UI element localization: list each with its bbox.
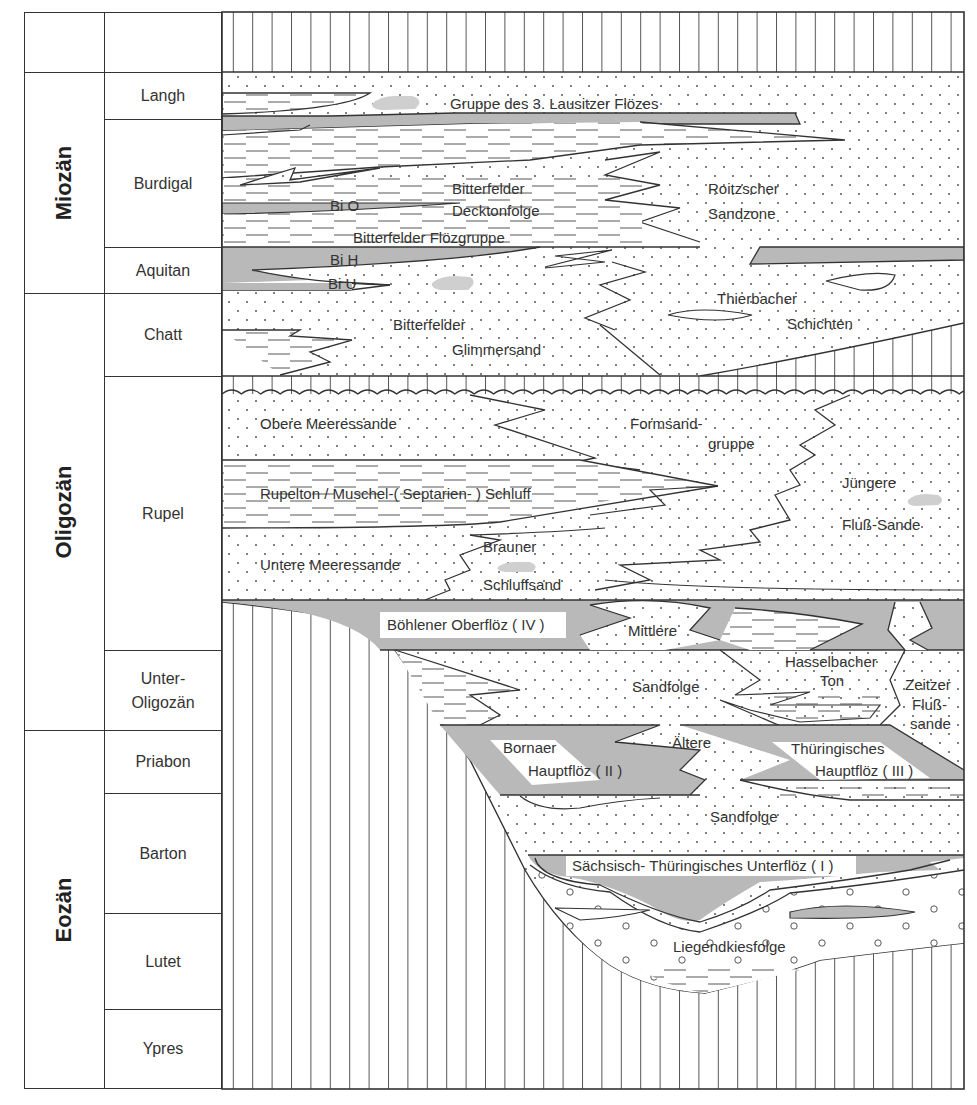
unit-label-unterfloez: Sächsisch- Thüringisches Unterflöz ( I ) bbox=[572, 857, 833, 874]
unit-label-zeitzer-3: sande bbox=[910, 715, 951, 732]
unit-label-brauner-2: Schluffsand bbox=[483, 576, 561, 593]
unit-label-flozgruppe: Bitterfelder Flözgruppe bbox=[353, 229, 505, 246]
unit-label-hasselbacher-2: Ton bbox=[820, 672, 844, 689]
unit-label-thierbacher-1: Thierbacher bbox=[717, 290, 797, 307]
unit-label-hasselbacher-1: Hasselbacher bbox=[785, 653, 877, 670]
unit-label-zeitzer-1: Zeitzer bbox=[905, 676, 951, 693]
unit-label-thierbacher-2: Schichten bbox=[787, 315, 853, 332]
unit-label-roitzscher-1: Roitzscher bbox=[708, 180, 779, 197]
unit-label-rupelton: Rupelton / Muschel-( Septarien- ) Schluf… bbox=[260, 485, 532, 502]
unit-label-boehlener: Böhlener Oberflöz ( IV ) bbox=[387, 616, 545, 633]
unit-label-bi-o: Bi O bbox=[330, 197, 359, 214]
unit-label-formsand-2: gruppe bbox=[708, 435, 755, 452]
stratigraphic-chart: Miozän Oligozän Eozän Langh Burdigal Aqu… bbox=[0, 0, 977, 1105]
unit-label-obere-meeressande: Obere Meeressande bbox=[260, 415, 397, 432]
unit-label-glimmersand-1: Bitterfelder bbox=[393, 316, 466, 333]
unit-label-juengere-1: Jüngere bbox=[842, 474, 896, 491]
unit-label-bornaer-1: Bornaer bbox=[503, 739, 556, 756]
cross-section: Gruppe des 3. Lausitzer Flözes Bitterfel… bbox=[0, 0, 977, 1105]
unit-label-thueringisches-1: Thüringisches bbox=[791, 740, 884, 757]
unit-label-sandfolge-mid: Sandfolge bbox=[632, 678, 700, 695]
unit-label-zeitzer-2: Fluß- bbox=[912, 696, 947, 713]
unit-label-brauner-1: Brauner bbox=[483, 538, 536, 555]
unit-label-deckton-1: Bitterfelder bbox=[452, 180, 525, 197]
unit-label-roitzscher-2: Sandzone bbox=[708, 205, 776, 222]
unit-label-mittlere: Mittlere bbox=[628, 622, 677, 639]
unit-label-lausitz: Gruppe des 3. Lausitzer Flözes bbox=[450, 95, 658, 112]
unit-label-thueringisches-2: Hauptflöz ( III ) bbox=[815, 762, 913, 779]
unit-label-bi-u: Bi U bbox=[328, 275, 356, 292]
unit-label-sandfolge-low: Sandfolge bbox=[710, 808, 778, 825]
unit-label-untere-meeressande: Untere Meeressande bbox=[260, 556, 400, 573]
unit-label-formsand-1: Formsand- bbox=[630, 415, 703, 432]
unit-label-deckton-2: Decktonfolge bbox=[452, 202, 540, 219]
unit-label-bi-h: Bi H bbox=[330, 251, 358, 268]
unit-label-bornaer-2: Hauptflöz ( II ) bbox=[528, 762, 622, 779]
unit-label-aeltere: Ältere bbox=[672, 734, 711, 751]
unit-label-liegendkies: Liegendkiesfolge bbox=[673, 938, 786, 955]
unit-label-juengere-2: Fluß-Sande bbox=[842, 516, 920, 533]
unit-label-glimmersand-2: Glimmersand bbox=[452, 341, 541, 358]
